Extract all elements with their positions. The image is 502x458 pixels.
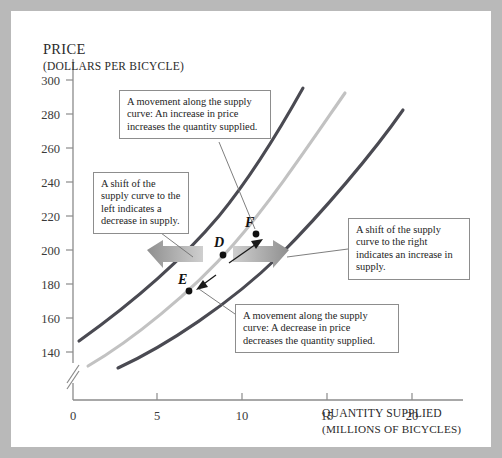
x-axis-subtitle-text: (MILLIONS OF BICYCLES) <box>322 423 461 435</box>
x-tick-label: 10 <box>236 409 249 423</box>
point-e: E <box>177 272 192 294</box>
y-tick-label: 180 <box>41 278 60 292</box>
leader-bottom-callout <box>199 289 235 314</box>
y-tick-label: 200 <box>41 244 60 258</box>
point-e-label: E <box>177 272 187 287</box>
callout-movement-up: A movement along the supply curve: An in… <box>119 90 271 139</box>
x-tick-label: 5 <box>154 409 160 423</box>
point-d-label: D <box>213 235 224 250</box>
leader-top-callout <box>219 142 255 229</box>
x-axis-title: QUANTITY SUPPLIED (MILLIONS OF BICYCLES) <box>322 407 461 435</box>
callout-shift-left: A shift of the supply curve to the left … <box>93 172 189 234</box>
y-tick-label: 140 <box>41 346 60 360</box>
y-tick-label: 260 <box>41 142 60 156</box>
y-axis-tick-labels: 140 160 180 200 220 240 260 280 300 <box>41 74 60 360</box>
y-tick-label: 220 <box>41 210 60 224</box>
y-axis-title: PRICE (DOLLARS PER BICYCLE) <box>43 41 184 72</box>
point-f-label: F <box>244 215 255 230</box>
x-axis-title-text: QUANTITY SUPPLIED <box>322 407 461 420</box>
point-f: F <box>244 215 259 237</box>
figure-frame: 140 160 180 200 220 240 260 280 300 0 5 <box>0 0 502 458</box>
x-axis-ticks <box>157 393 412 400</box>
x-tick-label: 0 <box>70 409 76 423</box>
y-tick-label: 160 <box>41 312 60 326</box>
y-axis-title-text: PRICE <box>43 41 184 58</box>
y-tick-label: 240 <box>41 176 60 190</box>
leader-right-callout <box>287 249 348 257</box>
point-d: D <box>213 235 226 258</box>
callout-movement-down: A movement along the supply curve: A dec… <box>235 304 399 353</box>
y-axis-ticks <box>66 80 73 352</box>
y-tick-label: 300 <box>41 74 60 88</box>
callout-shift-right: A shift of the supply curve to the right… <box>348 218 470 280</box>
figure-plate: 140 160 180 200 220 240 260 280 300 0 5 <box>11 11 491 447</box>
y-axis-subtitle-text: (DOLLARS PER BICYCLE) <box>43 60 184 72</box>
y-tick-label: 280 <box>41 108 60 122</box>
